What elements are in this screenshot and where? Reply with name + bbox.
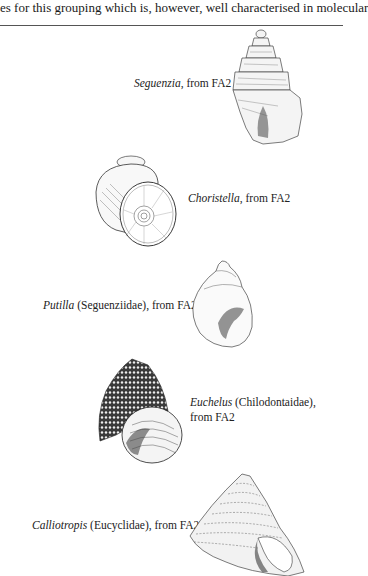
shell-illustration-choristella bbox=[86, 152, 181, 252]
caption-genus: Seguenzia bbox=[134, 77, 181, 89]
caption-rest: , from FA2 bbox=[181, 77, 232, 89]
shell-illustration-euchelus bbox=[92, 355, 187, 470]
caption-rest: (Eucyclidae), from FA2 bbox=[87, 519, 199, 531]
body-text-fragment: es for this grouping which is, however, … bbox=[0, 0, 368, 16]
caption-putilla: Putilla (Seguenziidae), from FA2 bbox=[43, 298, 197, 313]
caption-rest: , from FA2 bbox=[240, 192, 291, 204]
shell-illustration-putilla bbox=[188, 257, 258, 352]
caption-calliotropis: Calliotropis (Eucyclidae), from FA2 bbox=[32, 518, 199, 533]
horizontal-rule bbox=[0, 25, 343, 26]
caption-euchelus: Euchelus (Chilodontaidae), from FA2 bbox=[190, 395, 340, 425]
shell-illustration-calliotropis bbox=[188, 472, 308, 576]
caption-genus: Choristella bbox=[188, 192, 240, 204]
caption-genus: Putilla bbox=[43, 299, 74, 311]
caption-genus: Calliotropis bbox=[32, 519, 87, 531]
caption-genus: Euchelus bbox=[190, 396, 232, 408]
caption-seguenzia: Seguenzia, from FA2 bbox=[134, 76, 231, 91]
caption-rest: (Seguenziidae), from FA2 bbox=[74, 299, 196, 311]
shell-illustration-seguenzia bbox=[228, 28, 308, 148]
caption-choristella: Choristella, from FA2 bbox=[188, 191, 290, 206]
